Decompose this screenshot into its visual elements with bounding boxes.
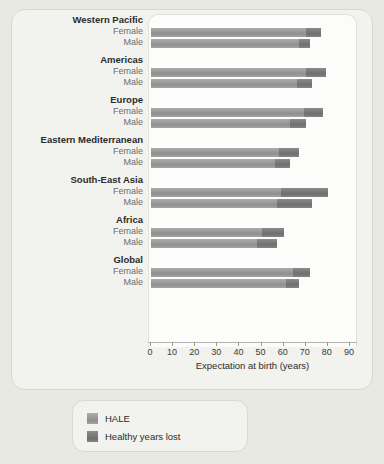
legend-item-hale: HALE xyxy=(87,409,247,427)
series-label-male: Male xyxy=(11,37,147,48)
legend-item-healthy-years-lost: Healthy years lost xyxy=(87,427,247,445)
series-label-male: Male xyxy=(11,277,147,288)
group-label-south-east-asia: South-East Asia xyxy=(11,174,147,186)
stacked-bar-europe-female xyxy=(151,108,323,117)
series-label-female: Female xyxy=(11,186,147,197)
bar-segment-hale xyxy=(151,268,293,277)
x-tick-label: 30 xyxy=(211,347,221,357)
stacked-bar-africa-female xyxy=(151,228,284,237)
x-tick-label: 80 xyxy=(322,347,332,357)
legend-label-healthy-years-lost: Healthy years lost xyxy=(105,431,181,442)
x-tick-label: 10 xyxy=(167,347,177,357)
bar-row xyxy=(149,107,356,118)
x-tick-label: 40 xyxy=(233,347,243,357)
category-axis-labels: Western PacificFemaleMaleAmericasFemaleM… xyxy=(11,14,147,288)
bar-segment-healthy-years-lost xyxy=(290,119,305,128)
bar-segment-hale xyxy=(151,68,306,77)
series-label-female: Female xyxy=(11,106,147,117)
stacked-bar-eastern-mediterranean-female xyxy=(151,148,299,157)
bar-segment-hale xyxy=(151,188,281,197)
bar-segment-hale xyxy=(151,28,306,37)
bar-row xyxy=(149,158,356,169)
x-tick xyxy=(172,342,173,346)
x-tick xyxy=(283,342,284,346)
bar-segment-healthy-years-lost xyxy=(286,279,299,288)
series-label-female: Female xyxy=(11,146,147,157)
bar-segment-healthy-years-lost xyxy=(293,268,311,277)
bar-segment-healthy-years-lost xyxy=(297,79,312,88)
bar-segment-hale xyxy=(151,108,304,117)
bar-row xyxy=(149,78,356,89)
bar-segment-healthy-years-lost xyxy=(279,148,299,157)
bar-row xyxy=(149,238,356,249)
bar-segment-healthy-years-lost xyxy=(277,199,312,208)
x-axis-line xyxy=(148,342,357,343)
group-header-spacer xyxy=(149,55,356,67)
group-label-global: Global xyxy=(11,254,147,266)
x-tick-label: 60 xyxy=(278,347,288,357)
group-header-spacer xyxy=(149,215,356,227)
bar-segment-hale xyxy=(151,79,297,88)
x-tick xyxy=(349,342,350,346)
bar-segment-hale xyxy=(151,119,290,128)
bar-row xyxy=(149,67,356,78)
bar-segment-healthy-years-lost xyxy=(299,39,310,48)
figure: Western PacificFemaleMaleAmericasFemaleM… xyxy=(11,9,373,455)
stacked-bar-africa-male xyxy=(151,239,277,248)
series-label-female: Female xyxy=(11,266,147,277)
group-header-spacer xyxy=(149,135,356,147)
bar-row xyxy=(149,198,356,209)
x-axis-title: Expectation at birth (years) xyxy=(148,360,357,371)
series-label-male: Male xyxy=(11,157,147,168)
bar-row xyxy=(149,38,356,49)
stacked-bar-global-female xyxy=(151,268,310,277)
series-label-male: Male xyxy=(11,197,147,208)
group-header-spacer xyxy=(149,15,356,27)
x-tick xyxy=(261,342,262,346)
bar-segment-healthy-years-lost xyxy=(262,228,284,237)
bar-row xyxy=(149,147,356,158)
x-tick-label: 50 xyxy=(256,347,266,357)
group-label-africa: Africa xyxy=(11,214,147,226)
group-label-americas: Americas xyxy=(11,54,147,66)
stacked-bar-western-pacific-female xyxy=(151,28,321,37)
x-tick-label: 20 xyxy=(189,347,199,357)
x-tick xyxy=(327,342,328,346)
bar-segment-hale xyxy=(151,228,262,237)
stacked-bar-eastern-mediterranean-male xyxy=(151,159,290,168)
bar-row xyxy=(149,267,356,278)
bar-segment-hale xyxy=(151,279,286,288)
bar-row xyxy=(149,187,356,198)
plot-box xyxy=(148,14,357,347)
stacked-bar-global-male xyxy=(151,279,299,288)
x-tick xyxy=(305,342,306,346)
group-label-europe: Europe xyxy=(11,94,147,106)
group-header-spacer xyxy=(149,95,356,107)
stacked-bar-south-east-asia-female xyxy=(151,188,328,197)
series-label-female: Female xyxy=(11,26,147,37)
series-label-male: Male xyxy=(11,77,147,88)
group-header-spacer xyxy=(149,255,356,267)
x-tick xyxy=(216,342,217,346)
x-tick xyxy=(150,342,151,346)
bar-segment-healthy-years-lost xyxy=(257,239,277,248)
bar-segment-healthy-years-lost xyxy=(275,159,290,168)
bar-row xyxy=(149,278,356,289)
legend-swatch-hale-icon xyxy=(87,413,98,424)
x-tick xyxy=(194,342,195,346)
bar-segment-healthy-years-lost xyxy=(306,68,326,77)
stacked-bar-americas-male xyxy=(151,79,312,88)
legend-label-hale: HALE xyxy=(105,413,130,424)
group-label-eastern-mediterranean: Eastern Mediterranean xyxy=(11,134,147,146)
bar-segment-hale xyxy=(151,199,277,208)
stacked-bar-western-pacific-male xyxy=(151,39,310,48)
series-label-female: Female xyxy=(11,66,147,77)
x-tick-label: 0 xyxy=(147,347,152,357)
bar-segment-hale xyxy=(151,39,299,48)
x-axis: 0102030405060708090 Expectation at birth… xyxy=(148,342,357,390)
group-label-western-pacific: Western Pacific xyxy=(11,14,147,26)
bar-row xyxy=(149,227,356,238)
bar-segment-healthy-years-lost xyxy=(304,108,324,117)
bar-segment-healthy-years-lost xyxy=(281,188,327,197)
stacked-bar-europe-male xyxy=(151,119,306,128)
